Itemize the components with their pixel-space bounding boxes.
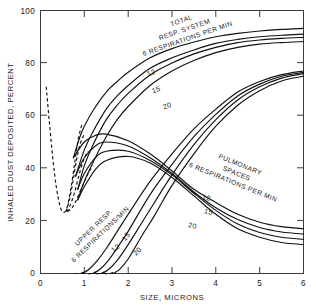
curve-dashed (46, 87, 82, 213)
x-tick-label-5: 5 (257, 279, 262, 288)
deposition-chart-figure: 100 80 60 40 20 0 0 1 2 3 4 5 6 SIZE, MI… (0, 0, 316, 308)
y-axis-ticks-right (297, 63, 304, 221)
curve-pulmonary-20 (78, 156, 304, 244)
pulmonary-curve-label-15: 15 (203, 207, 213, 217)
pulmonary-curve-label-20: 20 (187, 221, 197, 231)
x-tick-label-0: 0 (38, 279, 43, 288)
y-tick-label-60: 60 (25, 111, 35, 120)
upper-resp-label: UPPER RESP. 6 RESPIRATIONS/MIN (63, 198, 130, 263)
curve-upper-15 (102, 74, 304, 274)
total-resp-system-label: TOTAL RESP. SYSTEM 6 RESPIRATIONS PER MI… (135, 2, 233, 57)
y-axis-title: INHALED DUST DEPOSITED, PERCENT (6, 62, 15, 221)
y-tick-label-80: 80 (25, 59, 35, 68)
total-curve-label-12: 12 (146, 68, 157, 79)
curve-total-20 (78, 42, 304, 200)
total-curve-label-20: 20 (162, 101, 173, 112)
y-tick-label-0: 0 (30, 269, 35, 278)
y-tick-label-40: 40 (25, 164, 35, 173)
x-tick-label-2: 2 (126, 279, 131, 288)
curve-total-6 (73, 28, 303, 157)
total-curve-label-15: 15 (151, 85, 162, 96)
upper-curve-label-20: 20 (132, 246, 144, 258)
y-tick-label-100: 100 (20, 7, 35, 16)
x-tick-label-4: 4 (213, 279, 218, 288)
y-tick-label-20: 20 (25, 217, 35, 226)
curve-upper-12 (93, 72, 303, 273)
x-axis-title: SIZE, MICRONS (140, 293, 204, 302)
x-axis-ticks-top (84, 11, 259, 18)
chart-svg: 100 80 60 40 20 0 0 1 2 3 4 5 6 SIZE, MI… (0, 0, 316, 308)
y-axis-ticks-left (41, 63, 48, 221)
x-tick-label-6: 6 (301, 279, 306, 288)
x-tick-label-3: 3 (170, 279, 175, 288)
x-tick-label-1: 1 (82, 279, 87, 288)
pulmonary-curve-label-12: 12 (201, 193, 211, 203)
